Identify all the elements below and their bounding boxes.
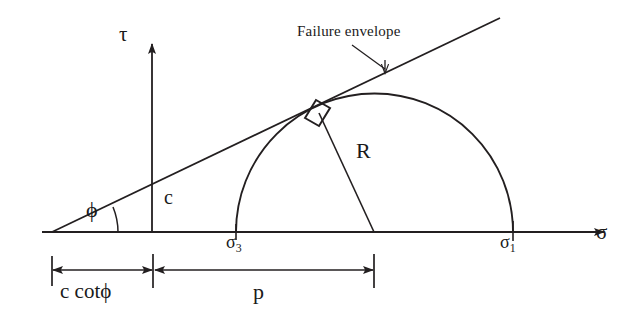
sigma1-label: σ1 — [500, 233, 516, 255]
friction-angle-arc — [113, 207, 118, 232]
right-angle-marker — [305, 100, 330, 126]
sigma3-subscript: 3 — [236, 241, 242, 255]
failure-envelope-label: Failure envelope — [297, 24, 401, 39]
figure-canvas — [0, 0, 626, 321]
sigma1-subscript: 1 — [510, 241, 516, 255]
sigma3-base: σ — [226, 232, 236, 252]
radius-line — [319, 113, 374, 232]
sigma3-label: σ3 — [226, 233, 242, 255]
sigma1-base: σ — [500, 232, 510, 252]
c-cot-phi-dimension-label: c cotϕ — [60, 281, 111, 302]
tau-axis-label: τ — [119, 24, 127, 45]
sigma-axis-label: σ — [596, 222, 607, 243]
p-dimension-label: p — [253, 281, 264, 303]
failure-envelope-line — [52, 18, 500, 232]
cohesion-label: c — [164, 187, 173, 207]
mohr-circle-figure: τ σ σ3 σ1 c ϕ R Failure envelope c cotϕ … — [0, 0, 626, 321]
radius-label: R — [356, 140, 371, 162]
failure-envelope-leader — [352, 45, 385, 73]
friction-angle-label: ϕ — [86, 199, 98, 221]
mohr-circle — [236, 93, 513, 232]
